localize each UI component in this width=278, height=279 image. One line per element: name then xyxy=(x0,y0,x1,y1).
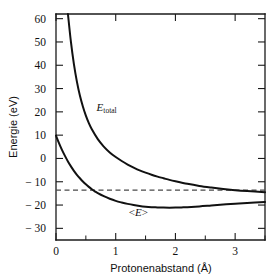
x-tick-label-2: 2 xyxy=(173,245,179,257)
y-tick-label--30: − 30 xyxy=(25,222,46,234)
x-tick-label-3: 3 xyxy=(232,245,238,257)
y-axis-title: Energie (eV) xyxy=(7,96,19,158)
y-tick-label-60: 60 xyxy=(35,13,47,25)
y-tick-label-50: 50 xyxy=(35,36,47,48)
y-tick-label-0: 0 xyxy=(40,152,46,164)
x-tick-label-0: 0 xyxy=(53,245,59,257)
y-tick-label--20: − 20 xyxy=(25,199,46,211)
y-tick-label-10: 10 xyxy=(35,129,47,141)
e-expectation-label: <E> xyxy=(129,206,148,218)
y-tick-label-40: 40 xyxy=(35,59,47,71)
x-axis-title: Protonenabstand (Å) xyxy=(110,262,212,274)
energy-vs-proton-distance-chart: 6050403020100− 10− 20− 30 0123 Etotal <E… xyxy=(0,0,278,279)
y-tick-label--10: − 10 xyxy=(25,176,46,188)
x-tick-label-1: 1 xyxy=(113,245,119,257)
y-tick-label-30: 30 xyxy=(35,83,47,95)
figure-root: 6050403020100− 10− 20− 30 0123 Etotal <E… xyxy=(0,0,278,279)
y-tick-label-20: 20 xyxy=(35,106,47,118)
